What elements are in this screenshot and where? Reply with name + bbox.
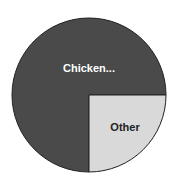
slice-label-chicken: Chicken... (63, 62, 115, 74)
pie-slices (12, 18, 166, 172)
pie-chart: Chicken... Other (0, 0, 176, 189)
pie-slice-other[interactable] (89, 95, 166, 172)
slice-label-other: Other (110, 121, 140, 133)
